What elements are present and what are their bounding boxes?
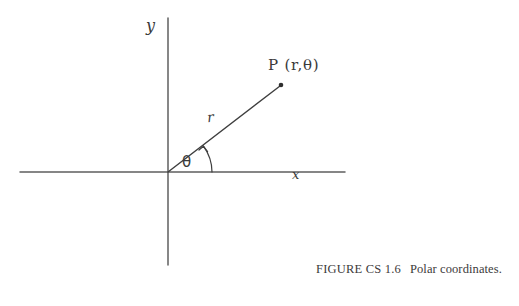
angle-label: θ <box>182 155 192 170</box>
y-axis-label: y <box>146 18 156 34</box>
figure-caption-text: Polar coordinates. <box>410 262 502 276</box>
x-axis-label: x <box>292 168 300 181</box>
figure-container: y x r θ P (r,θ) FIGURE CS 1.6Polar coord… <box>0 0 519 306</box>
point-p-marker <box>279 83 284 88</box>
polar-coordinates-diagram <box>0 0 519 306</box>
figure-caption: FIGURE CS 1.6Polar coordinates. <box>316 262 516 277</box>
point-p-label: P (r,θ) <box>268 58 320 73</box>
angle-arc <box>203 146 212 172</box>
figure-caption-number: FIGURE CS 1.6 <box>316 262 401 276</box>
radius-label: r <box>206 110 214 125</box>
